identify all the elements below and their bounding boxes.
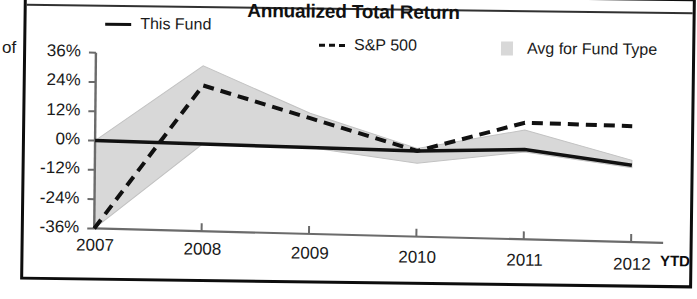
y-axis-tick-label: 12% [14, 99, 80, 120]
annualized-total-return-chart: Annualized Total Return This Fund S&P 50… [0, 0, 697, 299]
y-axis-tick-label: 36% [15, 41, 81, 62]
x-axis-tick-label: 2011 [496, 251, 552, 272]
y-axis-tick-label: -36% [13, 217, 79, 238]
x-axis-tick-label: 2012 [604, 255, 660, 276]
y-axis-tick-label: -12% [14, 158, 80, 179]
y-axis-tick-label: 24% [15, 70, 81, 91]
y-axis-tick-label: -24% [13, 187, 79, 208]
x-axis-tick-label: 2009 [282, 243, 338, 264]
x-axis-tick-label: 2008 [174, 239, 230, 260]
x-axis-tick-label: 2007 [67, 235, 123, 256]
x-axis-ytd-label: YTD [660, 252, 690, 269]
y-axis-tick-label: 0% [14, 129, 80, 150]
x-axis-tick-label: 2010 [389, 247, 445, 268]
